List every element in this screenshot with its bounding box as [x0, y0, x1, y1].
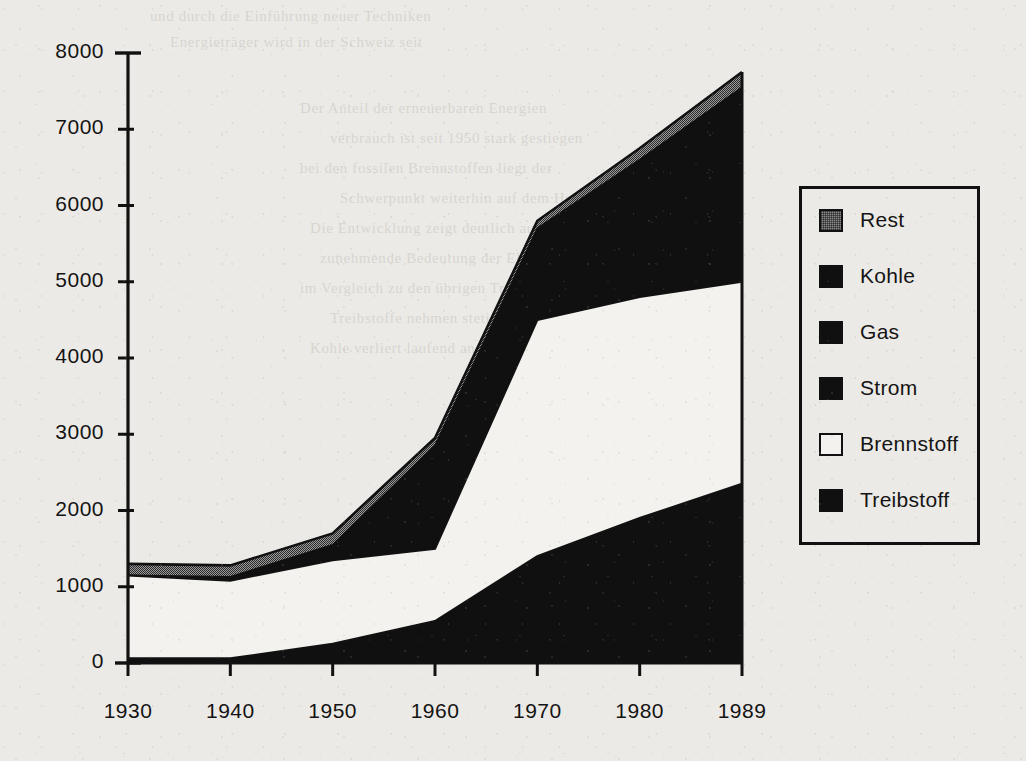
- x-tick-label: 1950: [278, 699, 388, 723]
- chart-legend: Rest Kohle Gas Strom Brennstoff Treibsto…: [799, 186, 980, 545]
- legend-item[interactable]: Kohle: [819, 263, 915, 289]
- legend-swatch-gas-icon: [819, 321, 843, 344]
- legend-swatch-kohle-icon: [819, 265, 843, 288]
- legend-label: Brennstoff: [860, 432, 958, 456]
- legend-item[interactable]: Rest: [819, 207, 904, 233]
- x-tick-label: 1940: [175, 699, 285, 723]
- y-tick-label: 6000: [0, 192, 104, 216]
- x-tick-label: 1970: [482, 699, 592, 723]
- x-tick-label: 1980: [585, 699, 695, 723]
- legend-item[interactable]: Treibstoff: [819, 487, 949, 513]
- y-tick-label: 0: [0, 649, 104, 673]
- legend-item[interactable]: Brennstoff: [819, 431, 958, 457]
- x-tick-label: 1960: [380, 699, 490, 723]
- y-tick-label: 7000: [0, 115, 104, 139]
- stacked-area-chart: 0 1000 2000 3000 4000 5000 6000 7000 800…: [0, 0, 1026, 761]
- legend-item[interactable]: Strom: [819, 375, 918, 401]
- legend-label: Strom: [860, 376, 918, 400]
- x-tick-label: 1930: [73, 699, 183, 723]
- y-tick-label: 5000: [0, 268, 104, 292]
- y-tick-label: 1000: [0, 573, 104, 597]
- legend-swatch-rest-icon: [819, 209, 843, 232]
- y-tick-label: 8000: [0, 39, 104, 63]
- x-tick-label: 1989: [687, 699, 797, 723]
- area-bands: [128, 72, 742, 663]
- y-tick-label: 4000: [0, 344, 104, 368]
- y-tick-label: 3000: [0, 420, 104, 444]
- legend-swatch-strom-icon: [819, 377, 843, 400]
- legend-label: Treibstoff: [860, 488, 949, 512]
- legend-label: Gas: [860, 320, 899, 344]
- y-tick-label: 2000: [0, 497, 104, 521]
- legend-label: Rest: [860, 208, 904, 232]
- legend-label: Kohle: [860, 264, 915, 288]
- legend-swatch-treibstoff-icon: [819, 489, 843, 512]
- legend-swatch-brennstoff-icon: [819, 433, 843, 456]
- legend-item[interactable]: Gas: [819, 319, 899, 345]
